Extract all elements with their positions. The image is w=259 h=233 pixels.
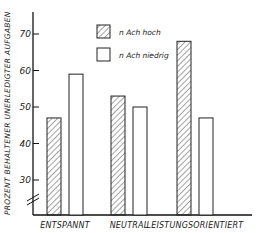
legend-label: n Ach hoch <box>119 28 161 37</box>
bars: ENTSPANNTNEUTRALLEISTUNGSORIENTIERT <box>40 41 244 230</box>
bar-leistungsorientiert-hoch <box>177 41 191 215</box>
y-axis-title: PROZENT BEHALTENER UNERLEDIGTER AUFGABEN <box>3 11 12 215</box>
x-category-label: ENTSPANNT <box>40 221 90 230</box>
y-tick-label: 60 <box>20 66 32 76</box>
bar-neutral-niedrig <box>133 107 147 215</box>
bar-entspannt-niedrig <box>69 74 83 215</box>
x-category-label: NEUTRAL <box>110 221 149 230</box>
legend-swatch <box>97 48 110 61</box>
y-tick-label: 50 <box>20 102 32 112</box>
bar-neutral-hoch <box>111 96 125 215</box>
y-tick-label: 30 <box>20 175 32 185</box>
legend: n Ach hochn Ach niedrig <box>97 25 169 61</box>
legend-swatch <box>97 25 110 38</box>
bar-entspannt-hoch <box>47 118 61 215</box>
y-tick-label: 70 <box>20 29 32 39</box>
bar-chart: 3040506070 ENTSPANNTNEUTRALLEISTUNGSORIE… <box>0 0 259 233</box>
x-category-label: LEISTUNGSORIENTIERT <box>147 221 245 230</box>
bar-leistungsorientiert-niedrig <box>199 118 213 215</box>
y-tick-label: 40 <box>20 139 32 149</box>
legend-label: n Ach niedrig <box>119 51 169 60</box>
